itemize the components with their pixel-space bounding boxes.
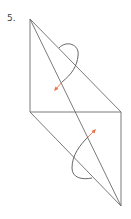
geometry-figure xyxy=(0,0,131,219)
upper-arrow-icon xyxy=(54,82,62,91)
left-to-bottom-edge xyxy=(30,112,121,206)
lower-arrow-icon xyxy=(88,129,96,137)
upper-angle-arc xyxy=(59,44,78,82)
